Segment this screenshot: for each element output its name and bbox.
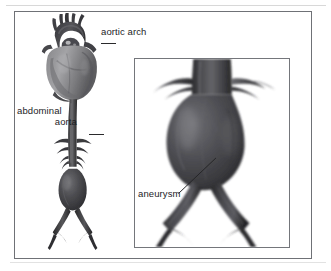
label-abdominal-aorta: abdominal aorta bbox=[17, 105, 79, 127]
inset-aorta-trunk bbox=[192, 59, 232, 95]
leader-line-abdominal-aorta bbox=[89, 134, 104, 135]
iliac-bifurcation bbox=[48, 206, 98, 250]
heart-body-shape bbox=[46, 45, 97, 100]
label-abdominal-aorta-line1: abdominal bbox=[17, 105, 79, 116]
aneurysm-shape bbox=[59, 169, 87, 211]
aortic-branch-arteries bbox=[54, 139, 92, 170]
inset-illustration bbox=[135, 59, 289, 247]
label-aneurysm: aneurysm bbox=[138, 188, 181, 199]
label-abdominal-aorta-line2: aorta bbox=[17, 116, 79, 127]
leader-line-aortic-arch bbox=[101, 43, 116, 44]
scan-artifact-line-top bbox=[6, 5, 326, 6]
inset-branch-arteries-right bbox=[232, 78, 275, 99]
leader-line-aneurysm bbox=[178, 158, 216, 194]
aortic-arch-shape bbox=[55, 22, 86, 54]
label-aortic-arch: aortic arch bbox=[101, 26, 146, 37]
inset-aneurysm-shape bbox=[167, 95, 245, 191]
inset-branch-arteries-left bbox=[153, 78, 192, 99]
scan-artifact-line-bottom bbox=[10, 262, 326, 263]
arch-branch-vessels bbox=[52, 13, 84, 31]
magnified-inset-panel bbox=[134, 58, 290, 248]
figure-root: aortic arch abdominal aorta aneurysm bbox=[0, 0, 331, 271]
